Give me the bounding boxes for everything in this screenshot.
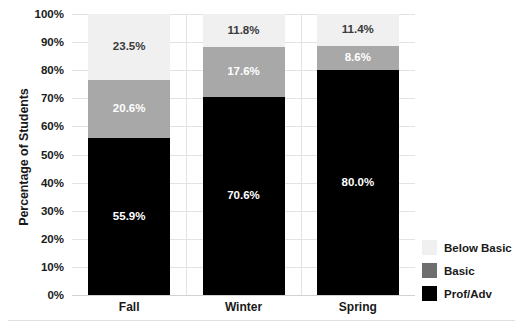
x-category-label: Spring <box>317 300 399 314</box>
stacked-bar-chart: Percentage of Students 100%90%80%70%60%5… <box>0 0 523 330</box>
bottom-divider <box>8 320 515 321</box>
y-tick-label: 50% <box>0 149 64 161</box>
category-separator <box>301 14 302 295</box>
chart-legend: Below BasicBasicProf/Adv <box>422 240 512 301</box>
bar-segment[interactable]: 55.9% <box>88 138 170 295</box>
bar-segment[interactable]: 17.6% <box>203 47 285 96</box>
bar-segment[interactable]: 23.5% <box>88 14 170 80</box>
bar-segment-label: 55.9% <box>113 211 146 223</box>
bar-segment-label: 11.4% <box>342 24 374 36</box>
bar-group[interactable]: 80.0%8.6%11.4% <box>317 14 399 295</box>
legend-swatch-icon <box>422 286 437 301</box>
bar-group[interactable]: 55.9%20.6%23.5% <box>88 14 170 295</box>
bar-segment-label: 80.0% <box>342 177 375 189</box>
gridline <box>72 295 415 296</box>
legend-item[interactable]: Below Basic <box>422 240 512 255</box>
y-tick-label: 70% <box>0 92 64 104</box>
bar-segment-label: 20.6% <box>113 103 146 115</box>
x-category-label: Fall <box>88 300 170 314</box>
legend-swatch-icon <box>422 240 437 255</box>
legend-label: Below Basic <box>444 242 512 254</box>
bar-segment[interactable]: 80.0% <box>317 70 399 295</box>
y-tick-label: 40% <box>0 177 64 189</box>
bar-segment[interactable]: 11.8% <box>203 14 285 47</box>
category-separator <box>186 14 187 295</box>
y-axis-tick-labels: 100%90%80%70%60%50%40%30%20%10%0% <box>0 0 64 330</box>
bar-segment[interactable]: 11.4% <box>317 14 399 46</box>
legend-label: Basic <box>444 265 475 277</box>
bar-segment-label: 17.6% <box>227 66 260 78</box>
y-tick-label: 90% <box>0 36 64 48</box>
legend-label: Prof/Adv <box>444 288 492 300</box>
bar-segment-label: 8.6% <box>345 52 371 64</box>
y-tick-label: 0% <box>0 289 64 301</box>
bar-segment-label: 11.8% <box>228 25 260 37</box>
y-tick-label: 100% <box>0 8 64 20</box>
x-category-label: Winter <box>203 300 285 314</box>
bar-segment[interactable]: 8.6% <box>317 46 399 70</box>
bar-group[interactable]: 70.6%17.6%11.8% <box>203 14 285 295</box>
y-tick-label: 30% <box>0 205 64 217</box>
y-tick-label: 20% <box>0 233 64 245</box>
legend-item[interactable]: Basic <box>422 263 512 278</box>
y-tick-label: 60% <box>0 120 64 132</box>
plot-area: 55.9%20.6%23.5%70.6%17.6%11.8%80.0%8.6%1… <box>72 14 415 295</box>
bar-segment[interactable]: 70.6% <box>203 97 285 295</box>
y-tick-label: 10% <box>0 261 64 273</box>
bar-segment[interactable]: 20.6% <box>88 80 170 138</box>
y-tick-label: 80% <box>0 64 64 76</box>
legend-swatch-icon <box>422 263 437 278</box>
bar-segment-label: 70.6% <box>227 190 260 202</box>
bar-segment-label: 23.5% <box>113 41 146 53</box>
legend-item[interactable]: Prof/Adv <box>422 286 512 301</box>
